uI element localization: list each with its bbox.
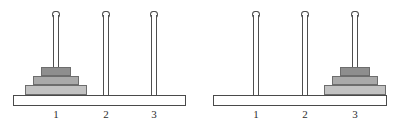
peg-1[interactable] bbox=[253, 11, 259, 95]
peg-label-2: 2 bbox=[295, 108, 315, 121]
small-disk[interactable] bbox=[340, 67, 370, 76]
peg-shaft bbox=[253, 15, 259, 95]
peg-2[interactable] bbox=[302, 11, 308, 95]
peg-shaft bbox=[302, 15, 308, 95]
medium-disk[interactable] bbox=[332, 76, 378, 85]
large-disk[interactable] bbox=[324, 85, 386, 95]
base-bar bbox=[213, 95, 387, 106]
peg-label-1: 1 bbox=[246, 108, 266, 121]
hanoi-state-goal: 1 2 3 bbox=[0, 0, 402, 127]
peg-label-3: 3 bbox=[345, 108, 365, 121]
